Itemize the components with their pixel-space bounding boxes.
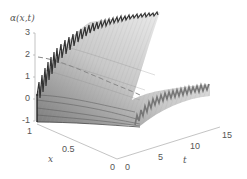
z-tick-3: 3 — [25, 28, 30, 37]
t-axis — [117, 127, 220, 159]
z-axis — [33, 33, 35, 121]
z-tick-2: 2 — [25, 50, 30, 59]
z-tick-0: 0 — [25, 94, 30, 103]
z-tick-neg1: -1 — [22, 116, 30, 125]
x-tick-0.5: 0.5 — [62, 145, 75, 154]
x-axis-label: x — [48, 155, 53, 164]
t-axis-label: t — [183, 156, 187, 165]
t-tick-5: 5 — [158, 153, 163, 162]
x-tick-0: 0 — [110, 163, 115, 172]
x-tick-1: 1 — [27, 127, 32, 136]
surface-plot — [0, 0, 247, 179]
t-tick-10: 10 — [190, 142, 200, 151]
z-tick-1: 1 — [25, 72, 30, 81]
z-axis-label: α(x,t) — [10, 14, 35, 23]
t-tick-15: 15 — [222, 131, 232, 140]
t-tick-0: 0 — [125, 163, 130, 172]
